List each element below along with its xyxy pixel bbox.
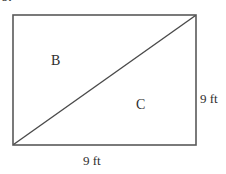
geometry-figure: 5. B C 9 ft 9 ft <box>0 0 226 174</box>
dimension-label-right: 9 ft <box>200 92 218 105</box>
figure-drawing <box>0 0 226 174</box>
region-label-c: C <box>136 98 145 112</box>
dimension-label-bottom: 9 ft <box>83 154 101 167</box>
region-label-b: B <box>51 54 60 68</box>
